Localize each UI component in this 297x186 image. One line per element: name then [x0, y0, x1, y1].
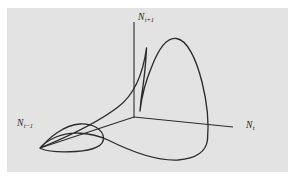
axis-depth-n-t-minus-1 [40, 117, 134, 148]
axis-label-n-t: Nt [246, 121, 254, 131]
attractor-trajectory-main [40, 38, 208, 160]
trajectory-group [40, 38, 208, 160]
figure-container: Nt+1 Nt−1 Nt [0, 0, 297, 186]
axis-symbol-vertical: N [138, 12, 144, 22]
axis-label-n-t-plus-1: Nt+1 [138, 13, 154, 23]
axis-horizontal-n-t [134, 117, 233, 127]
axis-symbol-depth: N [17, 118, 23, 128]
axis-subscript-vertical: t+1 [145, 16, 154, 23]
axis-symbol-horizontal: N [246, 120, 252, 130]
phase-portrait-plot [0, 0, 297, 186]
axis-label-n-t-minus-1: Nt−1 [17, 119, 33, 129]
axis-subscript-depth: t−1 [24, 122, 33, 129]
